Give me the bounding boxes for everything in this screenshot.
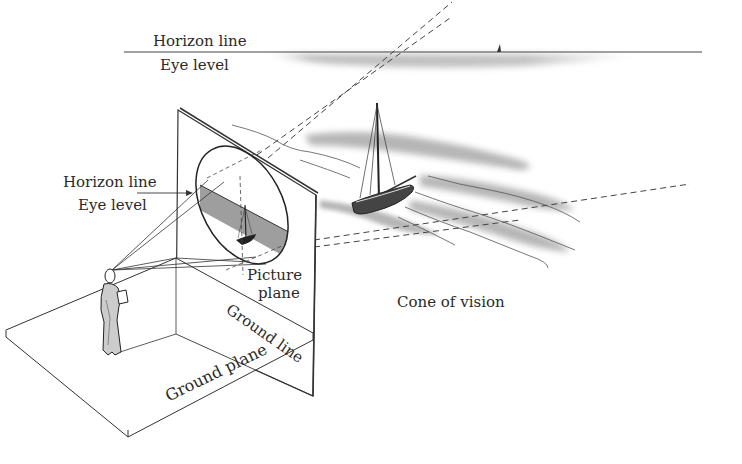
cone-of-vision-lines: [257, 2, 690, 247]
eye-level-label-left: Eye level: [78, 198, 147, 213]
picture-plane-label-2: plane: [258, 286, 300, 301]
sailboat-icon: [352, 103, 416, 214]
diagram-canvas: [0, 0, 742, 464]
cone-of-vision-label: Cone of vision: [397, 295, 505, 310]
horizon-line-label-top: Horizon line: [153, 34, 247, 49]
horizon-line-label-left: Horizon line: [63, 175, 157, 190]
eye-level-label-top: Eye level: [160, 58, 229, 73]
picture-plane-label-1: Picture: [247, 268, 302, 283]
distant-sail-icon: [497, 44, 501, 52]
horizon-sea-wash: [265, 54, 640, 68]
perspective-diagram: Horizon line Eye level Horizon line Eye …: [0, 0, 742, 464]
